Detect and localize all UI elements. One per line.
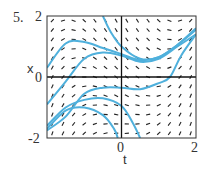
slope-mark	[114, 95, 118, 97]
slope-mark	[168, 104, 171, 107]
slope-mark	[190, 113, 192, 117]
slope-mark	[157, 86, 161, 87]
slope-mark	[179, 103, 181, 107]
slope-mark	[168, 113, 171, 116]
slope-mark	[190, 66, 192, 70]
slope-mark	[83, 19, 86, 22]
slope-mark	[82, 113, 86, 115]
slope-mark	[190, 103, 192, 107]
slope-mark	[179, 66, 182, 69]
slope-mark	[115, 47, 118, 50]
slope-mark	[51, 38, 53, 41]
slope-mark	[104, 28, 106, 31]
slope-mark	[147, 38, 150, 41]
slope-mark	[157, 29, 160, 32]
slope-mark	[147, 28, 150, 31]
slope-mark	[82, 38, 86, 40]
slope-mark	[72, 132, 74, 135]
slope-field-plot	[0, 0, 210, 172]
slope-mark	[146, 132, 150, 134]
slope-mark	[82, 67, 86, 68]
slope-mark	[190, 47, 192, 51]
slope-mark	[136, 85, 140, 87]
slope-mark	[135, 95, 139, 96]
slope-mark	[126, 28, 128, 32]
slope-mark	[72, 94, 75, 97]
slope-mark	[115, 19, 117, 23]
slope-mark	[147, 47, 150, 50]
slope-mark	[136, 28, 138, 31]
slope-mark	[93, 47, 96, 50]
slope-mark	[178, 48, 181, 51]
slope-mark	[157, 104, 161, 106]
slope-mark	[179, 94, 181, 97]
slope-mark	[157, 67, 161, 68]
slope-mark	[168, 94, 171, 97]
slope-mark	[62, 103, 64, 107]
slope-mark	[168, 132, 170, 135]
slope-mark	[61, 57, 64, 60]
slope-mark	[104, 66, 107, 69]
slope-mark	[103, 105, 107, 106]
slope-mark	[72, 20, 76, 21]
slope-mark	[62, 122, 64, 126]
slope-mark	[62, 94, 64, 97]
slope-mark	[189, 19, 192, 22]
slope-mark	[126, 19, 128, 23]
slope-mark	[136, 19, 138, 23]
slope-mark	[190, 131, 191, 135]
slope-mark	[146, 114, 150, 115]
slope-mark	[104, 38, 107, 41]
slope-mark	[168, 122, 171, 125]
slope-mark	[61, 38, 65, 40]
slope-mark	[190, 84, 192, 88]
slope-mark	[157, 123, 160, 126]
slope-mark	[167, 30, 171, 31]
slope-mark	[62, 131, 64, 135]
slope-mark	[62, 66, 65, 69]
slope-mark	[146, 123, 150, 124]
slope-mark	[72, 85, 75, 87]
slope-mark	[52, 131, 53, 135]
slope-mark	[114, 104, 118, 105]
slope-mark	[147, 19, 150, 22]
slope-mark	[72, 58, 76, 59]
slope-mark	[125, 104, 129, 105]
slope-mark	[167, 20, 171, 21]
slope-mark	[146, 67, 150, 69]
slope-mark	[157, 19, 160, 22]
slope-mark	[135, 105, 139, 106]
slope-mark	[93, 123, 97, 124]
slope-mark	[52, 113, 54, 117]
slope-mark	[93, 114, 97, 115]
slope-mark	[51, 28, 54, 31]
slope-mark	[178, 29, 182, 31]
slope-mark	[51, 19, 54, 22]
slope-mark	[179, 122, 181, 126]
slope-mark	[157, 95, 161, 96]
slope-mark	[51, 47, 53, 51]
slope-mark	[93, 86, 97, 87]
slope-mark	[72, 30, 76, 31]
slope-mark	[93, 67, 97, 69]
slope-mark	[168, 85, 171, 87]
slope-mark	[83, 123, 86, 126]
slope-mark	[114, 114, 118, 115]
slope-mark	[51, 66, 53, 70]
slope-mark	[93, 132, 97, 134]
slope-mark	[94, 19, 97, 22]
slope-mark	[167, 67, 171, 69]
slope-mark	[52, 103, 54, 107]
slope-mark	[103, 133, 107, 134]
slope-mark	[82, 104, 86, 106]
slope-mark	[61, 20, 65, 21]
slope-mark	[136, 66, 139, 69]
slope-mark	[167, 58, 171, 59]
slope-mark	[136, 38, 139, 41]
slope-mark	[104, 95, 108, 96]
slope-mark	[94, 28, 97, 31]
slope-mark	[93, 57, 96, 59]
slope-mark	[179, 131, 181, 135]
slope-mark	[51, 84, 53, 88]
slope-mark	[178, 20, 182, 21]
